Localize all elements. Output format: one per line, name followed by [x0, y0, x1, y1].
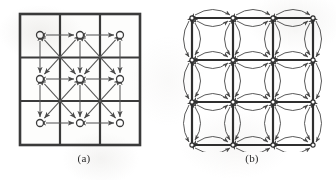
lattice-node — [117, 120, 124, 127]
panel-b-caption: (b) — [168, 152, 336, 164]
lattice-node — [311, 16, 315, 20]
panel-a-diagram — [0, 0, 168, 152]
lattice-node — [77, 76, 84, 83]
lattice-node — [231, 16, 235, 20]
edge-arc-outer — [236, 10, 270, 16]
lattice-node — [231, 100, 235, 104]
edge-arc-inner — [265, 65, 271, 97]
figure-root: (a) (b) — [0, 0, 336, 180]
lattice-node — [117, 32, 124, 39]
edge-arc-inner — [197, 105, 228, 111]
edge-arc-inner — [197, 137, 228, 143]
edge-arc-inner — [235, 65, 241, 97]
lattice-node — [190, 100, 194, 104]
edge-arc-inner — [305, 65, 311, 97]
edge-arc-outer — [316, 21, 322, 57]
lattice-node — [311, 100, 315, 104]
edge-arc-inner — [195, 65, 201, 97]
lattice-node — [190, 16, 194, 20]
lattice-node — [37, 32, 44, 39]
lattice-node — [271, 143, 275, 147]
edge-arc-outer — [184, 21, 190, 57]
lattice-node — [271, 100, 275, 104]
panel-a-caption: (a) — [0, 152, 168, 164]
edge-arc-inner — [277, 137, 308, 143]
edge-arc-inner — [197, 94, 228, 100]
panel-b-edges-inner — [195, 21, 310, 142]
lattice-node — [37, 120, 44, 127]
edge-arc-inner — [277, 21, 308, 27]
panel-b-nodes — [190, 16, 315, 147]
edge-arc-inner — [237, 94, 268, 100]
lattice-node — [77, 120, 84, 127]
edge-arc-outer — [195, 10, 230, 16]
edge-arc-inner — [197, 52, 228, 58]
panel-b-grid-lines — [192, 18, 313, 145]
lattice-node — [271, 58, 275, 62]
edge-arc-outer — [316, 63, 322, 99]
edge-arc-inner — [275, 107, 281, 140]
lattice-node — [231, 58, 235, 62]
panel-b-diagram — [168, 0, 336, 152]
edge-arc-inner — [277, 63, 308, 69]
lattice-node — [37, 76, 44, 83]
edge-arc-outer — [184, 63, 190, 99]
edge-arc-inner — [197, 63, 228, 69]
edge-arc-inner — [237, 63, 268, 69]
lattice-node — [190, 143, 194, 147]
edge-arc-inner — [275, 23, 281, 55]
edge-arc-inner — [277, 105, 308, 111]
edge-arc-inner — [235, 23, 241, 55]
lattice-node — [190, 58, 194, 62]
edge-arc-inner — [197, 21, 228, 27]
edge-arc-inner — [225, 23, 231, 55]
edge-arc-inner — [225, 107, 231, 140]
edge-arc-outer — [316, 105, 322, 142]
lattice-node — [311, 58, 315, 62]
edge-arc-inner — [275, 65, 281, 97]
edge-arc-inner — [265, 23, 271, 55]
edge-arc-inner — [277, 52, 308, 58]
edge-arc-outer — [276, 10, 310, 16]
edge-arc-inner — [305, 23, 311, 55]
edge-arc-inner — [195, 107, 201, 140]
lattice-node — [271, 16, 275, 20]
edge-arc-inner — [225, 65, 231, 97]
edge-arc-inner — [277, 94, 308, 100]
lattice-node — [77, 32, 84, 39]
edge-arc-inner — [305, 107, 311, 140]
edge-arc-outer — [184, 105, 190, 142]
edge-arc-inner — [237, 52, 268, 58]
lattice-node — [311, 143, 315, 147]
edge-arc-inner — [237, 21, 268, 27]
edge-arc-inner — [235, 107, 241, 140]
edge-arc-inner — [195, 23, 201, 55]
lattice-node — [231, 143, 235, 147]
lattice-node — [117, 76, 124, 83]
edge-arc-inner — [237, 105, 268, 111]
panel-b-edges-outer — [184, 10, 322, 153]
edge-arc-inner — [237, 137, 268, 143]
edge-arc-inner — [265, 107, 271, 140]
